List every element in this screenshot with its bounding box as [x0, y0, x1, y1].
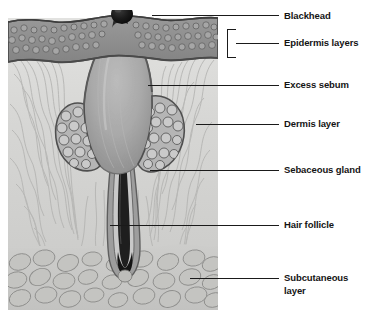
callout-label-excess-sebum: Excess sebum [284, 79, 349, 92]
callout-label-blackhead: Blackhead [284, 10, 331, 23]
callout-label-dermis-layer: Dermis layer [284, 118, 340, 131]
callout-label-epidermis-layers: Epidermis layers [284, 37, 358, 50]
callout-label-subcutaneous-layer: Subcutaneous layer [284, 272, 348, 297]
callout-label-sebaceous-gland: Sebaceous gland [284, 164, 361, 177]
skin-cross-section-figure: Blackhead Epidermis layers Excess sebum … [0, 0, 383, 324]
bracket-epidermis-layers [227, 29, 236, 57]
dermal-papilla [118, 270, 132, 282]
callout-label-hair-follicle: Hair follicle [284, 219, 334, 232]
blackhead-highlight [115, 7, 122, 12]
blackhead-plug [111, 4, 133, 24]
